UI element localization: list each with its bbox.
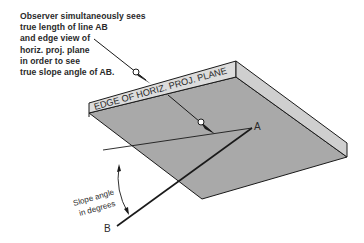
- arc-arrowhead-bottom: [124, 207, 129, 215]
- slope-angle-arc: [118, 167, 128, 213]
- diagram-canvas: Observer simultaneously sees true length…: [0, 0, 364, 243]
- eye-ball-icon-2: [198, 119, 204, 125]
- arc-arrowhead-top: [117, 164, 121, 172]
- eye-ball-icon: [133, 69, 139, 75]
- point-b-label: B: [104, 223, 111, 234]
- diagram-svg: EDGE OF HORIZ. PROJ. PLANE A B Slope ang…: [0, 0, 364, 243]
- point-a-label: A: [254, 121, 261, 132]
